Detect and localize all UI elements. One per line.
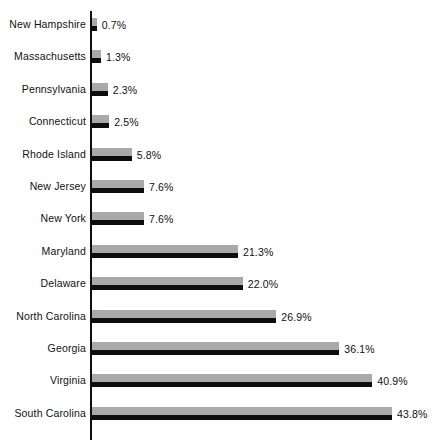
- value-label-georgia: 36.1%: [344, 343, 375, 356]
- bar-row: New Jersey7.6%: [0, 180, 432, 212]
- bar-south-carolina: [92, 407, 392, 421]
- bar-row: Maryland21.3%: [0, 245, 432, 277]
- bar-shadow: [92, 188, 144, 193]
- bar-pennsylvania: [92, 83, 108, 97]
- value-label-north-carolina: 26.9%: [281, 311, 312, 324]
- category-label-massachusetts: Massachusetts: [0, 50, 86, 63]
- bar-new-jersey: [92, 180, 144, 194]
- bar-row: Connecticut2.5%: [0, 115, 432, 147]
- bar-fill: [92, 83, 108, 91]
- category-label-pennsylvania: Pennsylvania: [0, 83, 86, 96]
- bar-shadow: [92, 415, 392, 420]
- bar-row: Pennsylvania2.3%: [0, 83, 432, 115]
- category-label-new-hampshire: New Hampshire: [0, 18, 86, 31]
- value-label-new-york: 7.6%: [149, 213, 174, 226]
- category-label-connecticut: Connecticut: [0, 115, 86, 128]
- category-label-north-carolina: North Carolina: [0, 310, 86, 323]
- bar-shadow: [92, 220, 144, 225]
- bar-fill: [92, 310, 276, 318]
- bar-row: New Hampshire0.7%: [0, 18, 432, 50]
- value-label-south-carolina: 43.8%: [397, 408, 428, 421]
- value-label-rhode-island: 5.8%: [137, 149, 162, 162]
- plot-area: New Hampshire0.7%Massachusetts1.3%Pennsy…: [0, 0, 432, 447]
- bar-fill: [92, 18, 97, 26]
- bar-new-york: [92, 212, 144, 226]
- bar-shadow: [92, 318, 276, 323]
- value-label-pennsylvania: 2.3%: [113, 84, 138, 97]
- category-label-new-york: New York: [0, 212, 86, 225]
- bar-connecticut: [92, 115, 109, 129]
- bar-virginia: [92, 374, 372, 388]
- bar-row: North Carolina26.9%: [0, 310, 432, 342]
- bar-shadow: [92, 91, 108, 96]
- bar-shadow: [92, 382, 372, 387]
- category-label-maryland: Maryland: [0, 245, 86, 258]
- bar-row: South Carolina43.8%: [0, 407, 432, 439]
- category-label-south-carolina: South Carolina: [0, 407, 86, 420]
- bar-georgia: [92, 342, 339, 356]
- bar-shadow: [92, 58, 101, 63]
- bar-row: Massachusetts1.3%: [0, 50, 432, 82]
- bar-shadow: [92, 156, 132, 161]
- bar-rhode-island: [92, 148, 132, 162]
- bar-fill: [92, 212, 144, 220]
- bar-fill: [92, 115, 109, 123]
- bar-row: Georgia36.1%: [0, 342, 432, 374]
- bar-north-carolina: [92, 310, 276, 324]
- bar-fill: [92, 407, 392, 415]
- value-label-new-jersey: 7.6%: [149, 181, 174, 194]
- bar-row: Rhode Island5.8%: [0, 148, 432, 180]
- category-label-delaware: Delaware: [0, 277, 86, 290]
- bar-shadow: [92, 123, 109, 128]
- bar-fill: [92, 148, 132, 156]
- bar-fill: [92, 50, 101, 58]
- category-label-rhode-island: Rhode Island: [0, 148, 86, 161]
- bar-shadow: [92, 253, 238, 258]
- bar-fill: [92, 245, 238, 253]
- category-label-georgia: Georgia: [0, 342, 86, 355]
- bar-new-hampshire: [92, 18, 97, 32]
- bar-shadow: [92, 350, 339, 355]
- value-label-delaware: 22.0%: [248, 278, 279, 291]
- value-label-connecticut: 2.5%: [114, 116, 139, 129]
- bar-chart: New Hampshire0.7%Massachusetts1.3%Pennsy…: [0, 0, 432, 447]
- bar-fill: [92, 342, 339, 350]
- category-label-new-jersey: New Jersey: [0, 180, 86, 193]
- bar-row: New York7.6%: [0, 212, 432, 244]
- value-label-massachusetts: 1.3%: [106, 51, 131, 64]
- bar-massachusetts: [92, 50, 101, 64]
- bar-row: Delaware22.0%: [0, 277, 432, 309]
- bar-fill: [92, 277, 243, 285]
- value-label-maryland: 21.3%: [243, 246, 274, 259]
- bar-shadow: [92, 285, 243, 290]
- value-label-virginia: 40.9%: [377, 375, 408, 388]
- bar-shadow: [92, 26, 97, 31]
- category-label-virginia: Virginia: [0, 374, 86, 387]
- bar-maryland: [92, 245, 238, 259]
- bar-fill: [92, 180, 144, 188]
- bar-row: Virginia40.9%: [0, 374, 432, 406]
- bar-delaware: [92, 277, 243, 291]
- bar-fill: [92, 374, 372, 382]
- value-label-new-hampshire: 0.7%: [102, 19, 127, 32]
